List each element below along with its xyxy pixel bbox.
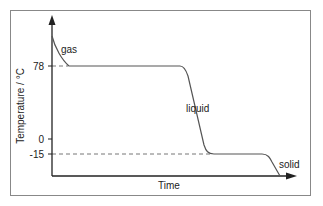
tick-label-minus15: -15 — [30, 149, 45, 160]
chart-frame — [11, 11, 311, 196]
annotation-liquid: liquid — [186, 103, 209, 114]
x-axis-label: Time — [158, 180, 180, 191]
annotation-solid: solid — [279, 159, 300, 170]
cooling-curve-chart: 78 0 -15 Temperature / °C Time gas liqui… — [0, 0, 323, 206]
y-axis-label: Temperature / °C — [15, 68, 26, 144]
annotation-gas: gas — [61, 44, 77, 55]
tick-label-78: 78 — [33, 61, 45, 72]
chart-container: 78 0 -15 Temperature / °C Time gas liqui… — [0, 0, 323, 206]
tick-label-0: 0 — [38, 134, 44, 145]
